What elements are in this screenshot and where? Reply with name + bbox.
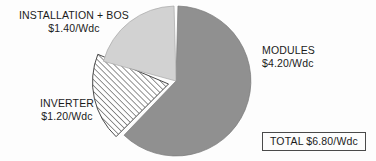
slice-label-installation-bos: INSTALLATION + BOS $1.40/Wdc <box>4 9 144 35</box>
pie-chart-figure: INSTALLATION + BOS $1.40/Wdc INVERTER $1… <box>0 0 376 161</box>
total-box: TOTAL $6.80/Wdc <box>262 132 366 151</box>
slice-label-modules-value: $4.20/Wdc <box>262 57 315 70</box>
slice-label-installation-bos-name: INSTALLATION + BOS <box>4 9 144 22</box>
total-box-text: TOTAL $6.80/Wdc <box>270 135 358 147</box>
slice-label-inverter: INVERTER $1.20/Wdc <box>18 97 116 123</box>
slice-label-installation-bos-value: $1.40/Wdc <box>4 22 144 35</box>
slice-label-modules-name: MODULES <box>262 44 315 57</box>
slice-label-modules: MODULES $4.20/Wdc <box>262 44 315 70</box>
slice-label-inverter-value: $1.20/Wdc <box>18 110 116 123</box>
slice-label-inverter-name: INVERTER <box>18 97 116 110</box>
